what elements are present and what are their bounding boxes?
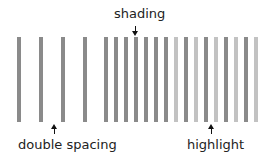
double-spacing-arrow-icon xyxy=(54,128,55,134)
bar-dark xyxy=(164,37,168,122)
bar-dark xyxy=(144,37,148,122)
bar-light xyxy=(174,37,178,122)
bar-dark xyxy=(104,37,108,122)
bar-dark xyxy=(224,37,228,122)
bar-dark xyxy=(114,37,118,122)
double-spacing-label: double spacing xyxy=(18,138,117,151)
shading-arrowhead-icon xyxy=(132,31,138,36)
bar-light xyxy=(214,37,218,122)
bar-dark xyxy=(39,37,43,122)
bar-light xyxy=(194,37,198,122)
bar-dark xyxy=(154,37,158,122)
bar-dark xyxy=(244,37,248,122)
highlight-arrow-icon xyxy=(211,128,212,134)
bar-dark xyxy=(134,37,138,122)
highlight-label: highlight xyxy=(187,138,244,151)
bar-dark xyxy=(124,37,128,122)
bar-dark xyxy=(204,37,208,122)
bar-dark xyxy=(61,37,65,122)
bar-dark xyxy=(184,37,188,122)
bar-light xyxy=(254,37,258,122)
bar-light xyxy=(234,37,238,122)
bar-dark xyxy=(17,37,21,122)
bar-dark xyxy=(83,37,87,122)
shading-label: shading xyxy=(114,7,165,20)
